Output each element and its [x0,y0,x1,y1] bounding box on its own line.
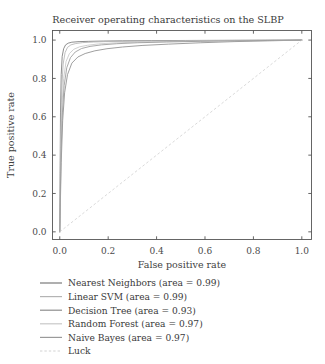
y-tick-label: 0.4 [32,150,47,160]
x-tick-label: 1.0 [295,246,310,256]
roc-chart-svg: Receiver operating characteristics on th… [0,0,325,364]
legend-label-decision-tree: Decision Tree (area = 0.93) [68,306,196,316]
legend-label-linear-svm: Linear SVM (area = 0.99) [68,292,187,302]
legend-label-luck: Luck [68,346,91,356]
y-tick-label: 0.6 [32,112,47,122]
y-tick-label: 0.2 [32,189,46,199]
y-tick-label: 0.8 [32,74,47,84]
chart-title: Receiver operating characteristics on th… [52,14,284,25]
y-tick-label: 0.0 [32,227,47,237]
y-axis-label: True positive rate [5,92,16,178]
x-tick-label: 0.6 [198,246,213,256]
x-tick-label: 0.0 [53,246,68,256]
y-tick-label: 1.0 [32,35,47,45]
roc-figure: Receiver operating characteristics on th… [0,0,325,364]
x-tick-label: 0.4 [149,246,164,256]
legend-label-naive-bayes: Naive Bayes (area = 0.97) [68,333,189,343]
x-tick-label: 0.2 [101,246,115,256]
legend-label-random-forest: Random Forest (area = 0.97) [68,319,203,329]
x-axis-label: False positive rate [138,259,227,270]
x-tick-label: 0.8 [246,246,261,256]
legend-label-nearest-neighbors: Nearest Neighbors (area = 0.99) [68,278,220,288]
